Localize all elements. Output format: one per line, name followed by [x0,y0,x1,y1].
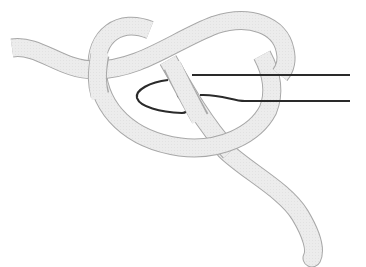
crochet-hook [137,75,350,113]
yarn-tail-lower [225,150,314,258]
yarn-loop-left-overlap [97,52,100,98]
crochet-slip-knot-illustration [0,0,366,267]
